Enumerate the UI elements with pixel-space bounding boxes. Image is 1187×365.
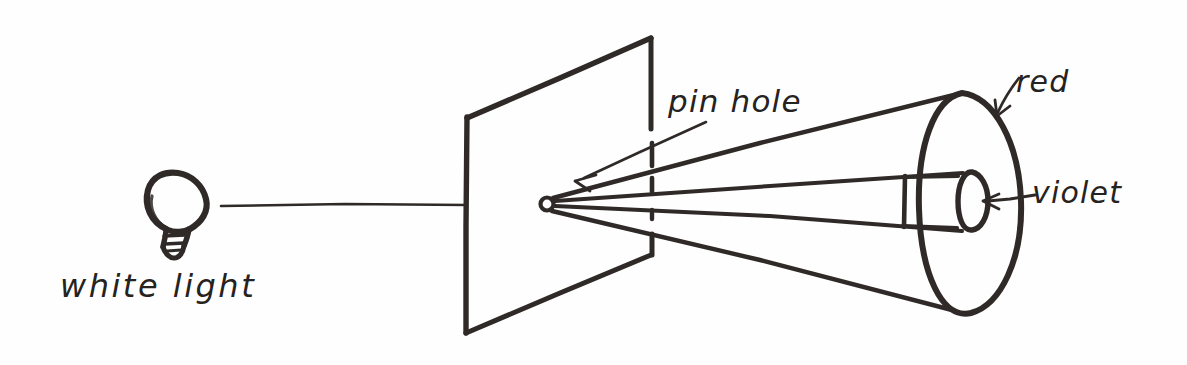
- violet-label: violet: [1032, 175, 1122, 210]
- screen-edge-bottom: [466, 255, 651, 333]
- white-light-label: white light: [60, 267, 256, 305]
- incident-white-light-ray: [221, 204, 467, 206]
- red-annotation: red: [995, 64, 1069, 116]
- inner-cone-wall-back: [904, 176, 905, 227]
- bulb-thread-ridge-2: [165, 243, 184, 244]
- outer-cone-rim-ellipse: [919, 93, 1021, 314]
- inner-cone-wall-bottom: [903, 226, 957, 228]
- red-dispersion-cone: [919, 93, 1021, 314]
- bulb-thread-ridge-1: [164, 235, 185, 236]
- violet-dispersion-cone: [903, 172, 988, 230]
- violet-annotation: violet: [983, 175, 1122, 210]
- inner-cone-wall-top: [905, 176, 958, 177]
- screen-edge-left: [466, 117, 467, 333]
- screen-edge-top: [467, 38, 651, 118]
- ray-inner-upper: [555, 173, 963, 201]
- bulb-glass-outline: [147, 173, 207, 232]
- pin-hole-label: pin hole: [667, 83, 802, 119]
- pinhole-screen: [466, 38, 652, 333]
- light-bulb: [147, 173, 207, 258]
- dispersed-light-rays: [552, 93, 963, 310]
- bulb-thread-ridge-3: [167, 250, 181, 251]
- red-label: red: [1016, 64, 1069, 99]
- pin-hole-annotation: pin hole: [575, 83, 802, 191]
- pin-hole-leader-line: [584, 122, 706, 178]
- pinhole-aperture: [541, 198, 554, 211]
- sketch-canvas: pin hole red violet white light: [0, 0, 1187, 365]
- pinhole-dispersion-figure: pin hole red violet white light: [0, 0, 1187, 365]
